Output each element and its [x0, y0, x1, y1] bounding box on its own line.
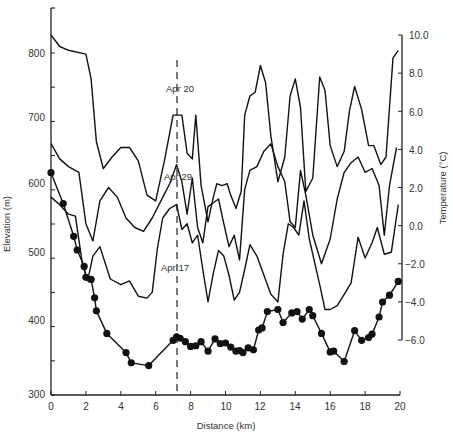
- series-apr-29: [51, 144, 397, 264]
- data-point-marker: [103, 330, 110, 337]
- annotation-apr17: Apr 17: [161, 262, 189, 273]
- data-point-marker: [306, 306, 313, 313]
- x-tick-8: 8: [188, 401, 194, 412]
- y2-tick-6: 6.0: [409, 107, 423, 118]
- x-tick-4: 4: [118, 401, 124, 412]
- data-point-marker: [279, 319, 286, 326]
- data-point-marker: [204, 348, 211, 355]
- y-tick-300: 300: [28, 389, 45, 400]
- data-point-marker: [122, 349, 129, 356]
- data-point-marker: [259, 324, 266, 331]
- data-point-marker: [379, 298, 386, 305]
- data-point-marker: [358, 337, 365, 344]
- y2-tick-8: 8.0: [409, 68, 423, 79]
- data-point-marker: [299, 315, 306, 322]
- data-point-marker: [47, 169, 54, 176]
- y2-axis-label: Temperature (°C): [437, 152, 448, 225]
- y-tick-800: 800: [28, 48, 45, 59]
- y-tick-500: 500: [28, 247, 45, 258]
- data-point-marker: [330, 348, 337, 355]
- data-point-marker: [293, 308, 300, 315]
- y2-tick-4: 4.0: [409, 145, 423, 156]
- data-point-marker: [145, 362, 152, 369]
- x-tick-18: 18: [359, 401, 371, 412]
- data-point-marker: [318, 330, 325, 337]
- y2-tick-0: 0.0: [409, 221, 423, 232]
- x-tick-0: 0: [48, 401, 54, 412]
- data-point-marker: [250, 346, 257, 353]
- x-tick-6: 6: [153, 401, 159, 412]
- x-axis: 0 2 4 6 8 10 12 14 16 18 20 Distance (km…: [48, 391, 406, 431]
- x-tick-14: 14: [289, 401, 301, 412]
- y2-tick-neg6: −6.0: [405, 335, 425, 346]
- data-point-marker: [375, 313, 382, 320]
- x-tick-2: 2: [83, 401, 89, 412]
- elevation-temperature-chart: 300 400 500 600 700 800 Elevation (m) 0 …: [0, 0, 453, 434]
- y-tick-700: 700: [28, 112, 45, 123]
- x-axis-label: Distance (km): [197, 420, 256, 431]
- y2-tick-10: 10.0: [409, 30, 429, 41]
- y2-tick-neg4: −4.0: [405, 297, 425, 308]
- x-tick-20: 20: [394, 401, 406, 412]
- x-tick-12: 12: [254, 401, 266, 412]
- data-point-marker: [128, 359, 135, 366]
- data-point-marker: [70, 233, 77, 240]
- annotation-apr20: Apr 20: [166, 83, 194, 94]
- y-tick-600: 600: [28, 178, 45, 189]
- y-axis-label: Elevation (m): [1, 196, 12, 252]
- data-point-marker: [197, 338, 204, 345]
- data-point-marker: [351, 327, 358, 334]
- data-point-marker: [309, 312, 316, 319]
- y2-tick-2: 2.0: [409, 183, 423, 194]
- data-point-marker: [264, 308, 271, 315]
- annotation-apr29: Apr 29: [164, 171, 192, 182]
- series-apr-17: [51, 197, 398, 309]
- data-point-marker: [368, 331, 375, 338]
- data-point-marker: [93, 307, 100, 314]
- series-apr-20: [51, 35, 398, 222]
- series-elevation-profile: [51, 173, 398, 366]
- right-axis: 10.0 8.0 6.0 4.0 2.0 0.0 −2.0 −4.0 −6.0 …: [398, 30, 448, 346]
- left-axis: 300 400 500 600 700 800 Elevation (m): [1, 8, 55, 400]
- x-tick-16: 16: [324, 401, 336, 412]
- data-point-marker: [91, 294, 98, 301]
- series-group: [47, 35, 401, 369]
- data-point-marker: [386, 292, 393, 299]
- data-point-marker: [341, 358, 348, 365]
- y-tick-400: 400: [28, 315, 45, 326]
- y2-tick-neg2: −2.0: [405, 259, 425, 270]
- data-point-marker: [274, 306, 281, 313]
- data-point-marker: [395, 278, 402, 285]
- x-tick-10: 10: [220, 401, 232, 412]
